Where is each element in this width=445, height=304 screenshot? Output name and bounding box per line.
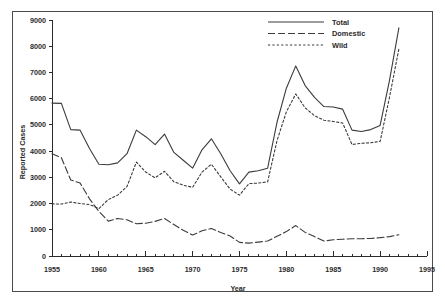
y-tick-label: 6000 xyxy=(30,94,46,103)
x-axis-title: Year xyxy=(230,284,245,293)
y-tick-label: 4000 xyxy=(30,147,46,156)
x-tick-label: 1990 xyxy=(372,265,388,274)
x-axis-tick-labels: 195519601965197019751980198519901995 xyxy=(44,265,435,274)
legend-label-total[interactable]: Total xyxy=(332,18,349,27)
y-tick-label: 1000 xyxy=(30,225,46,234)
y-tick-label: 3000 xyxy=(30,173,46,182)
line-chart: 0100020003000400050006000700080009000 19… xyxy=(0,0,445,304)
y-tick-label: 5000 xyxy=(30,120,46,129)
x-tick-label: 1980 xyxy=(278,265,294,274)
data-series xyxy=(52,28,399,243)
x-tick-label: 1960 xyxy=(91,265,107,274)
series-line-domestic xyxy=(52,154,399,243)
legend-label-domestic[interactable]: Domestic xyxy=(332,29,365,38)
y-axis-title: Reported Cases xyxy=(18,125,27,180)
series-line-total xyxy=(52,28,399,184)
y-axis-tick-labels: 0100020003000400050006000700080009000 xyxy=(30,16,46,261)
x-tick-label: 1985 xyxy=(325,265,341,274)
x-tick-label: 1970 xyxy=(185,265,201,274)
y-tick-label: 7000 xyxy=(30,68,46,77)
chart-figure: 0100020003000400050006000700080009000 19… xyxy=(0,0,445,304)
x-tick-label: 1955 xyxy=(44,265,60,274)
y-tick-label: 2000 xyxy=(30,199,46,208)
x-tick-label: 1995 xyxy=(419,265,435,274)
x-tick-label: 1975 xyxy=(232,265,248,274)
y-tick-label: 8000 xyxy=(30,42,46,51)
series-line-wild xyxy=(52,49,399,209)
x-tick-label: 1965 xyxy=(138,265,154,274)
chart-legend[interactable]: TotalDomesticWild xyxy=(268,18,365,50)
legend-label-wild[interactable]: Wild xyxy=(332,41,348,50)
y-tick-label: 9000 xyxy=(30,16,46,25)
y-tick-label: 0 xyxy=(42,252,46,261)
axis-ticks xyxy=(49,20,427,256)
